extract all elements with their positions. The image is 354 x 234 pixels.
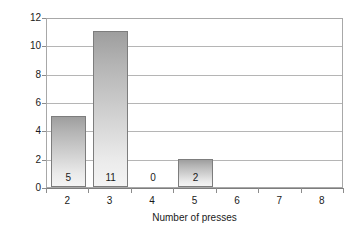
y-axis-tick-label: 2 (19, 155, 41, 165)
y-axis-tick-labels: 024681012 (17, 0, 41, 234)
x-axis-tick-mark (131, 188, 132, 193)
y-axis-tick-label: 6 (19, 98, 41, 108)
x-axis-tick-label: 4 (132, 195, 172, 207)
bar-slot (302, 19, 343, 187)
y-axis-tick-mark (42, 188, 46, 189)
x-axis-tick-mark (301, 188, 302, 193)
bar-slot: 5 (47, 19, 89, 187)
y-axis-tick-mark (42, 75, 46, 76)
x-axis-tick-mark (46, 188, 47, 193)
plot-area: 51102 (46, 18, 343, 188)
y-axis-tick-label: 0 (19, 183, 41, 193)
bars-layer: 51102 (47, 19, 342, 187)
bar-value-label: 11 (89, 172, 131, 183)
bar[interactable] (93, 31, 128, 187)
x-axis-tick-label: 5 (175, 195, 215, 207)
y-axis-tick-mark (42, 131, 46, 132)
bar-slot: 0 (132, 19, 174, 187)
y-axis-tick-mark (42, 103, 46, 104)
x-axis-tick-mark (173, 188, 174, 193)
x-axis-tick-label: 3 (90, 195, 130, 207)
x-axis-title: Number of presses (46, 212, 343, 223)
y-axis-tick-mark (42, 18, 46, 19)
x-axis-tick-label: 6 (217, 195, 257, 207)
y-axis-tick-mark (42, 46, 46, 47)
y-axis-tick-mark (42, 160, 46, 161)
bar-value-label: 5 (47, 172, 89, 183)
x-axis-tick-mark (258, 188, 259, 193)
x-axis-tick-mark (343, 188, 344, 193)
x-axis-line (46, 188, 343, 189)
bar-slot: 11 (89, 19, 131, 187)
y-axis-tick-label: 4 (19, 126, 41, 136)
bar-value-label: 0 (132, 172, 174, 183)
bar-slot: 2 (174, 19, 216, 187)
x-axis-tick-label: 2 (47, 195, 87, 207)
bar-chart: Number of sites 024681012 51102 2345678 … (0, 0, 354, 234)
y-axis-title: Number of sites (0, 0, 16, 234)
x-axis-tick-mark (216, 188, 217, 193)
x-axis-tick-mark (88, 188, 89, 193)
x-axis-tick-label: 8 (302, 195, 342, 207)
y-axis-tick-label: 12 (19, 13, 41, 23)
x-axis-tick-label: 7 (259, 195, 299, 207)
bar-slot (217, 19, 259, 187)
bar-slot (259, 19, 301, 187)
bar-value-label: 2 (174, 172, 216, 183)
y-axis-tick-label: 10 (19, 41, 41, 51)
y-axis-tick-label: 8 (19, 70, 41, 80)
